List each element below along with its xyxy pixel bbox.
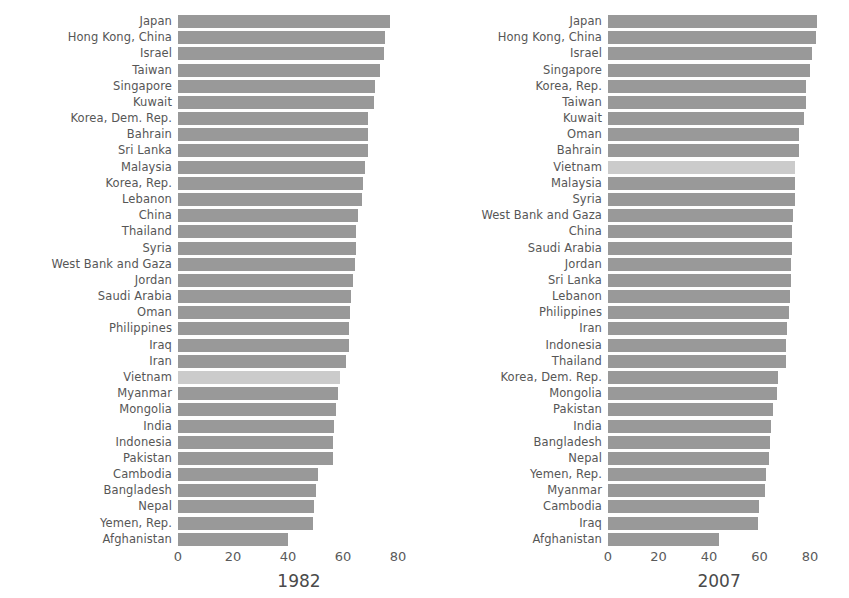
bar	[178, 209, 358, 222]
bar	[178, 144, 368, 157]
bar-category-label: Singapore	[430, 63, 602, 77]
bar-row: Nepal	[0, 500, 425, 513]
bar-category-label: Hong Kong, China	[430, 30, 602, 44]
bar-row: Cambodia	[0, 468, 425, 481]
bar-row: Afghanistan	[0, 533, 425, 546]
bar-row: Vietnam	[425, 161, 849, 174]
bar-row: Japan	[425, 15, 849, 28]
bar-row: Korea, Dem. Rep.	[0, 112, 425, 125]
bar-row: Myanmar	[425, 484, 849, 497]
bar-category-label: Indonesia	[0, 435, 172, 449]
bar-category-label: Kuwait	[430, 111, 602, 125]
bar-row: Korea, Rep.	[425, 80, 849, 93]
bar-category-label: Syria	[0, 241, 172, 255]
bar-category-label: Philippines	[430, 305, 602, 319]
bar-row: Pakistan	[425, 403, 849, 416]
bar-row: Kuwait	[0, 96, 425, 109]
bar	[608, 209, 793, 222]
bar	[608, 144, 799, 157]
bar-row: Jordan	[0, 274, 425, 287]
bar	[178, 258, 355, 271]
bar	[178, 31, 385, 44]
bar	[178, 322, 349, 335]
x-axis-2007: 2007 020406080	[425, 549, 849, 589]
bar-category-label: Philippines	[0, 321, 172, 335]
bar-row: Myanmar	[0, 387, 425, 400]
bar	[608, 128, 799, 141]
x-axis-tick-label: 20	[650, 549, 667, 564]
bar-category-label: Malaysia	[0, 160, 172, 174]
bar-row: Sri Lanka	[0, 144, 425, 157]
bar	[608, 403, 773, 416]
bar-category-label: Nepal	[430, 451, 602, 465]
bar-row: India	[0, 420, 425, 433]
bar-row: Korea, Dem. Rep.	[425, 371, 849, 384]
bar-row: Malaysia	[0, 161, 425, 174]
bar	[178, 387, 338, 400]
bar-row: Lebanon	[0, 193, 425, 206]
bar-category-label: Kuwait	[0, 95, 172, 109]
bar	[608, 242, 792, 255]
bar-category-label: Saudi Arabia	[0, 289, 172, 303]
bar-row: Jordan	[425, 258, 849, 271]
bar	[608, 420, 771, 433]
bar	[178, 484, 316, 497]
bar-category-label: Korea, Dem. Rep.	[430, 370, 602, 384]
x-axis-tick-label: 40	[280, 549, 297, 564]
bar-row: Israel	[425, 47, 849, 60]
x-axis-tick-label: 40	[701, 549, 718, 564]
bar-row: China	[0, 209, 425, 222]
bar-row: Saudi Arabia	[0, 290, 425, 303]
bar-category-label: Taiwan	[0, 63, 172, 77]
bar	[608, 193, 795, 206]
x-axis-1982: 1982 020406080	[0, 549, 425, 589]
bar	[178, 242, 356, 255]
bar	[608, 322, 787, 335]
bar-row: Korea, Rep.	[0, 177, 425, 190]
bar-row: Thailand	[0, 225, 425, 238]
bar-category-label: Iran	[0, 354, 172, 368]
bar-row: Yemen, Rep.	[0, 517, 425, 530]
bar-category-label: Israel	[430, 46, 602, 60]
bar-row: Taiwan	[425, 96, 849, 109]
bar	[608, 177, 795, 190]
bar-category-label: Korea, Dem. Rep.	[0, 111, 172, 125]
bar-category-label: Iraq	[430, 516, 602, 530]
bar	[608, 274, 791, 287]
bar-category-label: Bangladesh	[430, 435, 602, 449]
bar-category-label: Oman	[0, 305, 172, 319]
bar-row: Oman	[425, 128, 849, 141]
bar-category-label: Iran	[430, 321, 602, 335]
bar-category-label: Korea, Rep.	[430, 79, 602, 93]
bar	[178, 468, 318, 481]
x-axis-tick-label: 60	[335, 549, 352, 564]
bar	[178, 533, 288, 546]
bar	[178, 274, 353, 287]
bar-category-label: Saudi Arabia	[430, 241, 602, 255]
plot-area-2007: JapanHong Kong, ChinaIsraelSingaporeKore…	[425, 13, 849, 547]
bar-row: Bahrain	[425, 144, 849, 157]
bar-category-label: Afghanistan	[0, 532, 172, 546]
bar-row: Bahrain	[0, 128, 425, 141]
bar-category-label: Cambodia	[0, 467, 172, 481]
bar-row: Japan	[0, 15, 425, 28]
bar	[608, 436, 770, 449]
life-expectancy-dual-bar-figure: JapanHong Kong, ChinaIsraelTaiwanSingapo…	[0, 0, 849, 598]
bar-row: Kuwait	[425, 112, 849, 125]
bar-category-label: India	[430, 419, 602, 433]
bar-row: Mongolia	[425, 387, 849, 400]
bar-category-label: Nepal	[0, 499, 172, 513]
bar	[178, 112, 368, 125]
bar-category-label: Israel	[0, 46, 172, 60]
bar-category-label: West Bank and Gaza	[430, 208, 602, 222]
bar-category-label: Sri Lanka	[430, 273, 602, 287]
bar-category-label: Yemen, Rep.	[430, 467, 602, 481]
bar	[178, 500, 314, 513]
bar-highlighted	[178, 371, 340, 384]
bar-row: Mongolia	[0, 403, 425, 416]
bar-row: Iran	[425, 322, 849, 335]
bar-category-label: Pakistan	[0, 451, 172, 465]
bar	[608, 290, 790, 303]
plot-area-1982: JapanHong Kong, ChinaIsraelTaiwanSingapo…	[0, 13, 425, 547]
bar	[608, 500, 759, 513]
